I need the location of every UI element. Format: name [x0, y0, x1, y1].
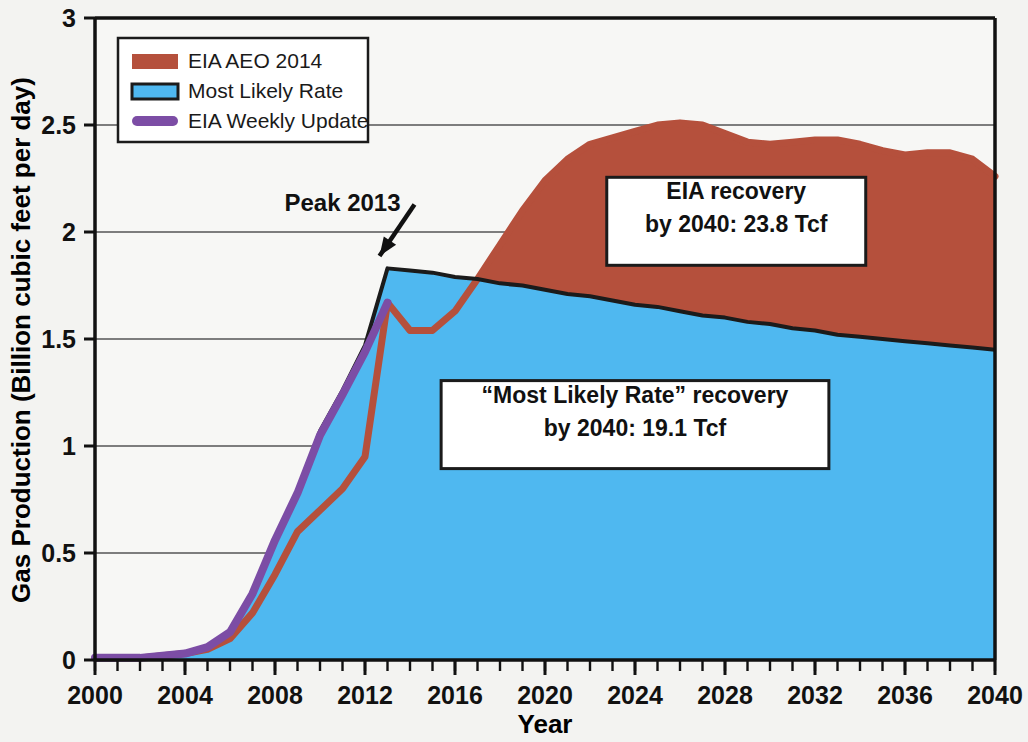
y-tick-label: 3: [62, 4, 76, 32]
y-tick-label: 2.5: [41, 111, 76, 139]
legend-line-swatch: [132, 116, 178, 126]
annotation-eia-recovery-line: by 2040: 23.8 Tcf: [645, 211, 828, 237]
y-tick-label: 0.5: [41, 539, 76, 567]
x-tick-label: 2004: [157, 681, 213, 709]
x-tick-label: 2012: [337, 681, 393, 709]
annotation-eia-recovery-line: EIA recovery: [666, 178, 806, 204]
y-tick-label: 0: [62, 646, 76, 674]
annotation-peak-2013: Peak 2013: [284, 189, 400, 216]
y-tick-label: 1.5: [41, 325, 76, 353]
legend-swatch: [132, 54, 178, 69]
annotation-eia-recovery: EIA recoveryby 2040: 23.8 Tcf: [607, 177, 866, 265]
legend-label: Most Likely Rate: [188, 79, 343, 102]
x-tick-label: 2024: [607, 681, 663, 709]
y-axis-title: Gas Production (Billion cubic feet per d…: [6, 77, 36, 603]
gas-production-area-chart: 00.511.522.53200020042008201220162020202…: [0, 0, 1028, 742]
y-tick-label: 2: [62, 218, 76, 246]
legend-swatch: [132, 84, 178, 99]
chart-figure: 00.511.522.53200020042008201220162020202…: [0, 0, 1028, 742]
x-tick-label: 2036: [877, 681, 933, 709]
annotation-most-likely-recovery-line: “Most Likely Rate” recovery: [482, 382, 789, 408]
x-tick-label: 2008: [247, 681, 303, 709]
legend-label: EIA AEO 2014: [188, 49, 323, 72]
x-tick-label: 2040: [967, 681, 1023, 709]
y-tick-label: 1: [62, 432, 76, 460]
legend-label: EIA Weekly Update: [188, 109, 369, 132]
annotation-most-likely-recovery-line: by 2040: 19.1 Tcf: [544, 415, 727, 441]
x-tick-label: 2000: [67, 681, 123, 709]
chart-legend: EIA AEO 2014Most Likely RateEIA Weekly U…: [118, 38, 369, 142]
x-axis-title: Year: [518, 709, 573, 739]
annotation-most-likely-recovery: “Most Likely Rate” recoveryby 2040: 19.1…: [441, 381, 829, 469]
x-tick-label: 2020: [517, 681, 573, 709]
x-tick-label: 2028: [697, 681, 753, 709]
x-tick-label: 2032: [787, 681, 843, 709]
x-tick-label: 2016: [427, 681, 483, 709]
